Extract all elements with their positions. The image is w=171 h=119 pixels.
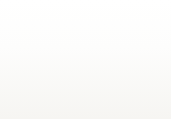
venn-diagram-graphic (11, 10, 160, 108)
venn-diagram-figure: A B (0, 0, 171, 119)
venn-circles (29, 25, 146, 101)
set-label-a: A (37, 57, 43, 67)
set-label-b: B (118, 57, 124, 67)
